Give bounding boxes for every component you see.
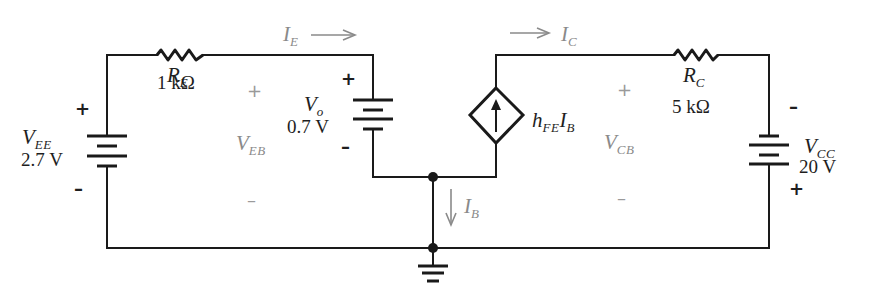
- arrow-ib-icon: [446, 189, 456, 225]
- veb-symbol: V: [236, 131, 249, 155]
- ib-subscript: B: [471, 206, 479, 221]
- ie-symbol: I: [283, 22, 290, 46]
- vo-value: 0.7 V: [287, 117, 329, 136]
- vcc-plus-sign: +: [789, 180, 804, 198]
- vcb-symbol: V: [604, 130, 617, 154]
- wire-rc-to-vcc: [718, 55, 769, 136]
- vo-label: Vo: [304, 94, 324, 115]
- source-b: B: [566, 120, 574, 135]
- rc-label: RC: [683, 65, 705, 86]
- ib-label: IB: [464, 196, 479, 217]
- source-label: hFEIB: [532, 110, 575, 131]
- arrow-ie-icon: [311, 30, 355, 40]
- battery-vee-icon: [87, 136, 127, 166]
- wire-vo-to-node: [373, 129, 496, 177]
- rc-value: 5 kΩ: [672, 97, 710, 116]
- vee-plus-sign: +: [75, 100, 90, 118]
- rc-subscript: C: [696, 75, 705, 90]
- junction-dot-ground: [428, 243, 438, 253]
- resistor-rc-icon: [674, 50, 718, 60]
- vcb-plus-sign: +: [617, 81, 632, 99]
- wire-left-top: [107, 55, 157, 136]
- vcc-minus-sign: –: [789, 98, 798, 116]
- battery-vo-icon: [353, 100, 393, 129]
- ie-subscript: E: [290, 34, 298, 49]
- arrow-ic-icon: [510, 28, 549, 38]
- battery-vcc-icon: [749, 136, 789, 164]
- vee-symbol: V: [22, 125, 35, 149]
- vee-label: VEE: [22, 127, 52, 148]
- vcc-symbol: V: [804, 134, 817, 158]
- ie-label: IE: [283, 24, 298, 45]
- dependent-current-source-icon: [470, 88, 523, 143]
- ic-subscript: C: [568, 34, 577, 49]
- vo-symbol: V: [304, 92, 317, 116]
- veb-label: VEB: [236, 133, 266, 154]
- ib-symbol: I: [464, 194, 471, 218]
- vcc-value: 20 V: [799, 157, 836, 176]
- vo-minus-sign: –: [341, 138, 350, 156]
- vcb-subscript: CB: [617, 142, 635, 157]
- vcc-label: VCC: [804, 136, 835, 157]
- vee-value: 2.7 V: [21, 150, 63, 169]
- veb-subscript: EB: [249, 143, 266, 158]
- re-value: 1 kΩ: [157, 73, 195, 92]
- ic-symbol: I: [561, 22, 568, 46]
- source-h: h: [532, 108, 543, 132]
- wire-left-bottom: [107, 166, 433, 248]
- veb-minus-sign: –: [247, 191, 256, 209]
- vcb-minus-sign: –: [617, 189, 626, 207]
- circuit-schematic: [0, 0, 870, 298]
- vo-plus-sign: +: [341, 70, 356, 88]
- veb-plus-sign: +: [247, 82, 262, 100]
- vcb-label: VCB: [604, 132, 634, 153]
- ic-label: IC: [561, 24, 577, 45]
- vee-minus-sign: –: [74, 180, 83, 198]
- junction-dot-base: [428, 172, 438, 182]
- wire-source-top: [496, 55, 674, 88]
- source-fe: FE: [543, 120, 560, 135]
- resistor-re-icon: [157, 50, 203, 60]
- rc-symbol: R: [683, 63, 696, 87]
- ground-icon: [418, 266, 448, 281]
